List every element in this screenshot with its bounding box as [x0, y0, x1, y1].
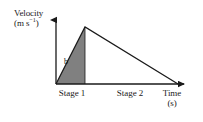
- x-axis-label-line1: Time: [163, 88, 181, 98]
- y-axis-label: Velocity (m s−1): [14, 8, 43, 28]
- y-axis-unit-prefix: (m s: [14, 18, 29, 28]
- x-tick-label-stage-2: Stage 2: [102, 88, 158, 98]
- x-tick-label-stage-1: Stage 1: [44, 88, 100, 98]
- y-axis-label-line2: (m s−1): [14, 18, 43, 28]
- x-axis-label: Time (s): [152, 88, 192, 108]
- y-axis-unit-suffix: ): [36, 18, 39, 28]
- velocity-time-graph-figure: Velocity (m s−1) Stage 1 Stage 2 Time (s…: [0, 0, 203, 122]
- shaded-area-label: b: [64, 57, 68, 66]
- x-axis-label-line2: (s): [152, 98, 192, 108]
